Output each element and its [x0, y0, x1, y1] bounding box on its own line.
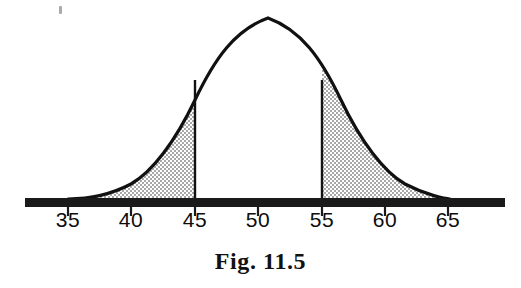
x-tick-label-50: 50	[246, 208, 270, 232]
x-tick-label-55: 55	[310, 208, 334, 232]
shaded-region-left-tail	[68, 18, 450, 199]
x-tick-label-35: 35	[56, 208, 80, 232]
x-tick-label-40: 40	[119, 208, 143, 232]
x-tick-label-45: 45	[183, 208, 207, 232]
figure-container: 35 40 45 50 55 60 65 Fig. 11.5	[0, 0, 521, 288]
x-tick-label-65: 65	[436, 208, 460, 232]
figure-caption: Fig. 11.5	[0, 248, 521, 275]
normal-distribution-chart	[0, 0, 521, 240]
bell-curve-line	[68, 18, 450, 199]
shaded-region-right-tail	[68, 18, 450, 199]
x-tick-label-60: 60	[373, 208, 397, 232]
x-axis-bar	[25, 198, 505, 207]
